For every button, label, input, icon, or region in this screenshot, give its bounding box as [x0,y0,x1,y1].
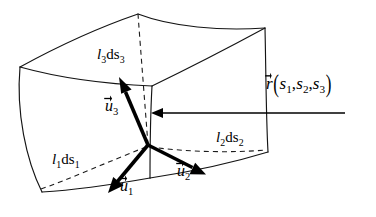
curvilinear-volume-element-svg [0,0,376,217]
u1-vector-symbol: u [120,178,128,194]
label-u1: u1 [120,178,133,198]
label-l3ds3-diff: ds [106,46,120,62]
u2-letter: u [177,162,185,179]
u3-letter: u [105,97,113,114]
arg3-letter: s [313,74,320,93]
u3-subscript: 3 [113,106,118,117]
label-l3ds3-diff-sub: 3 [120,54,125,65]
label-u2: u2 [177,163,190,183]
u2-vector-symbol: u [177,163,185,179]
label-l2ds2: l2ds2 [216,130,244,148]
label-l1ds1: l1ds1 [52,152,80,170]
u2-subscript: 2 [185,171,190,182]
r-vector-symbol: r [266,75,273,92]
arg2-letter: s [296,74,303,93]
label-l1ds1-diff: ds [61,151,75,167]
u3-vector-symbol: u [105,98,113,114]
label-u3: u3 [105,98,118,118]
open-paren: ( [273,71,280,97]
close-paren: ) [325,71,332,97]
label-l1ds1-diff-sub: 1 [75,159,80,170]
figure-root: l3ds3 l2ds2 l1ds1 u3 u1 u2 r(s1,s2,s3) [0,0,376,217]
u1-subscript: 1 [128,186,133,197]
label-l2ds2-diff-sub: 2 [239,137,244,148]
r-letter: r [266,74,273,93]
u1-letter: u [120,177,128,194]
label-l2ds2-diff: ds [225,129,239,145]
label-position-vector: r(s1,s2,s3) [266,75,332,96]
label-l3ds3: l3ds3 [97,47,125,65]
